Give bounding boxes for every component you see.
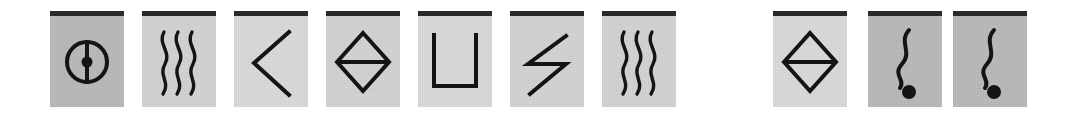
wavy-line-with-dot-icon [868, 16, 942, 107]
right-group [0, 0, 1080, 119]
diamond-with-horizontal-line-icon [773, 16, 847, 107]
symbol-tile-figure [0, 0, 1080, 119]
symbol-card[interactable] [773, 11, 847, 107]
symbol-card[interactable] [868, 11, 942, 107]
wavy-line-with-dot-icon [953, 16, 1027, 107]
symbol-card[interactable] [953, 11, 1027, 107]
